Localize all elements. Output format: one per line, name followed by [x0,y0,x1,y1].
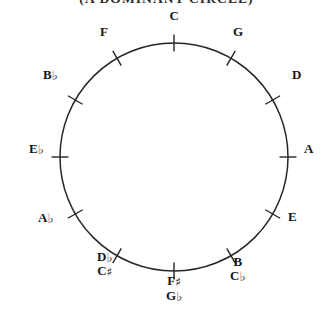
note-alternate-db-cs: C♯ [97,264,113,279]
note-primary-fs-gb: F♯ [166,274,182,289]
note-primary-db-cs: D♭ [97,250,113,264]
tick-g [227,51,236,66]
note-label-ab: A♭ [38,211,54,225]
note-primary-c: C [170,9,179,23]
note-alternate-b-cb: C♭ [230,269,246,283]
note-primary-a: A [304,142,313,156]
note-primary-d: D [292,68,301,82]
note-label-e: E [288,210,297,224]
note-primary-e: E [288,210,297,224]
note-label-d: D [292,68,301,82]
tick-e [265,210,280,219]
note-alternate-fs-gb: G♭ [166,289,182,303]
note-label-fs-gb: F♯G♭ [166,274,182,303]
note-primary-eb: E♭ [29,142,44,156]
circle-of-fifths-diagram: (A DOMINANT CIRCLE) CGDAEBC♭F♯G♭D♭C♯A♭E♭… [0,0,333,330]
tick-d [265,96,280,105]
tick-marks [52,35,297,280]
note-label-a: A [304,142,313,156]
note-label-db-cs: D♭C♯ [97,250,113,279]
note-primary-ab: A♭ [38,211,54,225]
tick-db-cs [113,248,122,263]
note-primary-bb: B♭ [43,68,58,82]
note-primary-g: G [233,25,243,39]
tick-ab [68,210,83,219]
note-label-g: G [233,25,243,39]
note-primary-b-cb: B [230,255,246,269]
tick-bb [68,96,83,105]
note-label-c: C [170,9,179,23]
note-label-f: F [100,25,108,39]
note-label-b-cb: BC♭ [230,255,246,283]
circle-outline [60,43,288,271]
note-primary-f: F [100,25,108,39]
note-label-eb: E♭ [29,142,44,156]
note-label-bb: B♭ [43,68,58,82]
tick-f [113,51,122,66]
